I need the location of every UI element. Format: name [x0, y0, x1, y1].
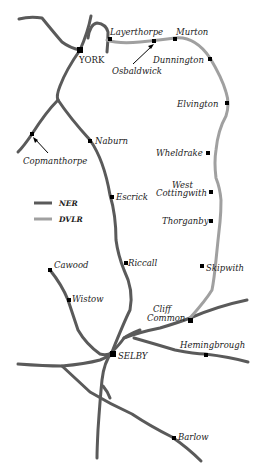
label-hemingbrough: Hemingbrough	[179, 340, 245, 350]
station-wheldrake-marker	[206, 151, 210, 155]
label-osbaldwick: Osbaldwick	[112, 66, 162, 76]
label-west-cottingwith-2: Cottingwith	[156, 188, 207, 198]
label-wistow: Wistow	[72, 294, 104, 304]
station-thorganby-marker	[209, 219, 213, 223]
ner-line-barlow	[62, 366, 201, 461]
station-murton-marker	[173, 37, 177, 41]
ner-line-selby-south	[97, 352, 112, 458]
station-wistow-marker	[67, 298, 71, 302]
station-naburn-marker	[88, 139, 92, 143]
station-dunnington-marker	[208, 57, 212, 61]
station-cliff-common-marker	[188, 318, 193, 323]
station-hemingbrough-marker	[204, 353, 208, 357]
station-copmanthorpe-marker	[30, 132, 34, 136]
ner-lines	[18, 16, 248, 461]
station-selby-marker	[110, 351, 116, 357]
label-elvington: Elvington	[176, 99, 218, 109]
label-barlow: Barlow	[177, 432, 209, 442]
label-selby: SELBY	[118, 351, 149, 361]
railway-map: NER DVLR YORK Layerthorpe Murton Osbaldw…	[0, 0, 261, 476]
station-elvington-marker	[225, 101, 229, 105]
label-copmanthorpe: Copmanthorpe	[23, 156, 87, 166]
label-dunnington: Dunnington	[152, 55, 204, 65]
label-naburn: Naburn	[94, 136, 128, 146]
label-cawood: Cawood	[54, 260, 89, 270]
ner-line-cawood-branch	[50, 270, 112, 355]
label-murton: Murton	[175, 27, 208, 37]
stations	[30, 37, 229, 440]
label-cliff-common-2: Common	[147, 313, 185, 323]
ner-line-west-york	[19, 17, 80, 50]
station-barlow-marker	[172, 436, 176, 440]
station-york-marker	[77, 47, 83, 53]
osbaldwick-arrow	[133, 46, 152, 64]
ner-line-link	[103, 386, 110, 398]
ner-line-selby-east	[124, 300, 247, 338]
legend-ner-label: NER	[58, 199, 78, 208]
station-escrick-marker	[110, 195, 114, 199]
label-riccall: Riccall	[127, 258, 157, 268]
label-thorganby: Thorganby	[162, 216, 209, 226]
station-layerthorpe-marker	[108, 37, 112, 41]
copmanthorpe-arrow	[35, 139, 48, 153]
label-skipwith: Skipwith	[206, 263, 244, 273]
station-labels: YORK Layerthorpe Murton Osbaldwick Dunni…	[23, 27, 245, 442]
legend: NER DVLR	[34, 199, 83, 224]
station-osbaldwick-marker	[152, 39, 156, 43]
station-west-cottingwith-marker	[209, 190, 213, 194]
label-escrick: Escrick	[115, 192, 148, 202]
label-york: YORK	[78, 55, 105, 65]
legend-dvlr-label: DVLR	[58, 215, 83, 224]
label-layerthorpe: Layerthorpe	[109, 27, 163, 37]
ner-line-york-layerthorpe	[88, 23, 108, 52]
label-wheldrake: Wheldrake	[156, 148, 203, 158]
ner-line-copmanthorpe	[18, 100, 58, 152]
station-cawood-marker	[48, 268, 52, 272]
ner-line-york-south	[57, 50, 80, 100]
station-skipwith-marker	[200, 264, 204, 268]
